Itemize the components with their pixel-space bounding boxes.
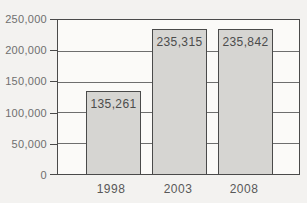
bar-chart: 250,000 200,000 150,000 100,000 50,000 0… [0,0,307,203]
y-axis-tick-label: 250,000 [0,12,47,26]
plot-area: 135,261 235,315 235,842 [57,19,300,175]
y-axis-tick-label: 0 [0,168,47,182]
bar-1998: 135,261 [86,91,141,174]
y-axis-tick-label: 150,000 [0,74,47,88]
y-axis-tick [50,81,57,82]
bar-value-label: 135,261 [87,92,140,111]
bar-value-label: 235,842 [219,30,272,49]
y-axis-tick [50,174,57,175]
y-axis-tick-label: 100,000 [0,106,47,120]
x-axis-label: 2003 [148,182,208,196]
y-axis-tick [50,144,57,145]
y-axis-tick [50,19,57,20]
y-axis-tick [50,113,57,114]
x-axis-label: 2008 [214,182,274,196]
bar-2008: 235,842 [218,29,273,174]
y-axis-tick-label: 50,000 [0,137,47,151]
y-axis-tick-label: 200,000 [0,43,47,57]
x-axis-label: 1998 [81,182,141,196]
y-axis-tick [50,50,57,51]
bar-2003: 235,315 [152,29,207,174]
bar-value-label: 235,315 [153,30,206,49]
